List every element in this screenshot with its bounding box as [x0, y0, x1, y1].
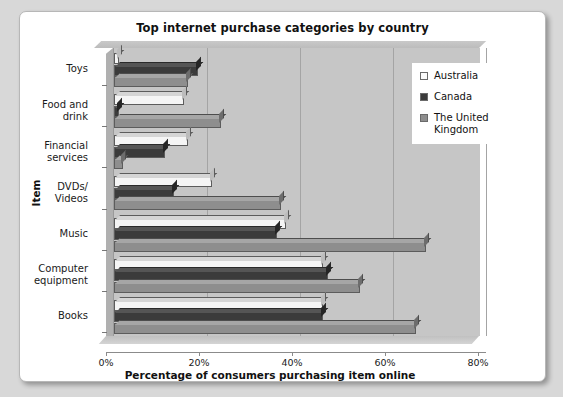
- x-tick-0: [106, 352, 107, 356]
- bar-cap-top: [115, 226, 282, 231]
- bar-cap-right: [186, 68, 191, 82]
- bar-cap-right: [321, 303, 326, 317]
- x-axis-label-0: 0%: [98, 357, 113, 368]
- y-axis-label-1: Food anddrink: [19, 99, 88, 122]
- chart-title: Top internet purchase categories by coun…: [20, 21, 545, 35]
- bar-uk-2[interactable]: [114, 158, 123, 169]
- legend-swatch-ca: [420, 93, 428, 101]
- bar-cap-right: [326, 262, 331, 276]
- x-tick-40: [292, 352, 293, 356]
- bar-cap-top: [115, 132, 194, 137]
- bar-cap-top: [115, 256, 328, 261]
- plot-left-wall: [106, 48, 113, 342]
- bar-cap-right: [358, 274, 363, 288]
- bar-cap-right: [121, 150, 126, 164]
- gridline-40: [300, 48, 301, 336]
- bar-uk-0[interactable]: [114, 76, 188, 87]
- bar-cap-top: [115, 185, 180, 190]
- bar-cap-top: [115, 308, 328, 313]
- bar-au-1[interactable]: [114, 94, 184, 105]
- y-tick-0: [102, 85, 107, 86]
- x-axis-label-20: 20%: [188, 357, 209, 368]
- bar-cap-right: [196, 56, 201, 70]
- gridline-60: [393, 48, 394, 336]
- bar-cap-top: [115, 114, 226, 119]
- bar-cap-right: [279, 191, 284, 205]
- legend-label-au: Australia: [434, 70, 478, 82]
- bar-cap-top: [115, 196, 287, 201]
- x-axis-line: [106, 352, 486, 353]
- legend-label-uk: The United Kingdom: [434, 112, 510, 136]
- bar-uk-4[interactable]: [114, 241, 426, 252]
- bar-cap-top: [115, 215, 291, 220]
- x-axis-title: Percentage of consumers purchasing item …: [20, 369, 520, 381]
- bar-uk-3[interactable]: [114, 199, 281, 210]
- bar-uk-5[interactable]: [114, 282, 360, 293]
- x-axis-label-40: 40%: [281, 357, 302, 368]
- gridline-20: [207, 48, 208, 336]
- x-tick-80: [478, 352, 479, 356]
- y-axis-label-6: Books: [19, 310, 88, 322]
- bar-cap-top: [115, 238, 431, 243]
- bar-cap-top: [115, 297, 328, 302]
- bar-uk-1[interactable]: [114, 117, 221, 128]
- bar-cap-top: [115, 173, 217, 178]
- bar-cap-right: [414, 315, 419, 329]
- y-tick-6: [102, 332, 107, 333]
- legend-item-ca[interactable]: Canada: [420, 91, 510, 103]
- legend-swatch-au: [420, 72, 428, 80]
- x-tick-60: [385, 352, 386, 356]
- legend-label-ca: Canada: [434, 91, 472, 103]
- bar-cap-right: [172, 180, 177, 194]
- legend: AustraliaCanadaThe United Kingdom: [412, 63, 516, 144]
- x-axis-label-80: 80%: [467, 357, 488, 368]
- y-axis-label-2: Financialservices: [19, 140, 88, 163]
- bar-cap-right: [219, 109, 224, 123]
- y-tick-2: [102, 167, 107, 168]
- bar-cap-top: [115, 62, 203, 67]
- y-axis-label-0: Toys: [19, 63, 88, 75]
- y-tick-1: [102, 126, 107, 127]
- y-axis-title: Item: [30, 180, 42, 207]
- bar-cap-right: [321, 251, 326, 265]
- chart-card: Top internet purchase categories by coun…: [19, 11, 546, 382]
- bar-cap-top: [115, 91, 189, 96]
- plot-floor-slab: [99, 336, 479, 344]
- y-tick-4: [102, 250, 107, 251]
- y-tick-3: [102, 209, 107, 210]
- bar-cap-right: [182, 86, 187, 100]
- legend-swatch-uk: [420, 114, 428, 122]
- legend-item-au[interactable]: Australia: [420, 70, 510, 82]
- bar-cap-right: [210, 168, 215, 182]
- bar-uk-6[interactable]: [114, 323, 416, 334]
- bar-cap-top: [115, 320, 421, 325]
- plot-top-slab: [94, 41, 486, 48]
- y-tick-5: [102, 291, 107, 292]
- bar-cap-top: [115, 279, 366, 284]
- bar-cap-top: [115, 73, 194, 78]
- bar-cap-right: [186, 127, 191, 141]
- y-axis-label-5: Computerequipment: [19, 263, 88, 286]
- x-tick-20: [199, 352, 200, 356]
- bar-cap-right: [424, 232, 429, 246]
- legend-item-uk[interactable]: The United Kingdom: [420, 112, 510, 136]
- y-axis-label-4: Music: [19, 228, 88, 240]
- bar-cap-right: [284, 209, 289, 223]
- bar-cap-top: [115, 267, 333, 272]
- x-axis-label-60: 60%: [374, 357, 395, 368]
